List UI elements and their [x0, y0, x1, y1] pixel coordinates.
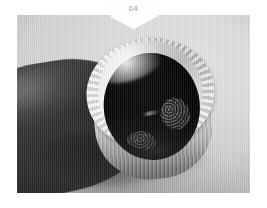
step-number-label: 04 [129, 5, 139, 13]
surface-shadow [17, 118, 250, 193]
page-root: 04 [0, 0, 267, 208]
yarn-strand [141, 110, 161, 118]
step-photo [17, 15, 250, 193]
